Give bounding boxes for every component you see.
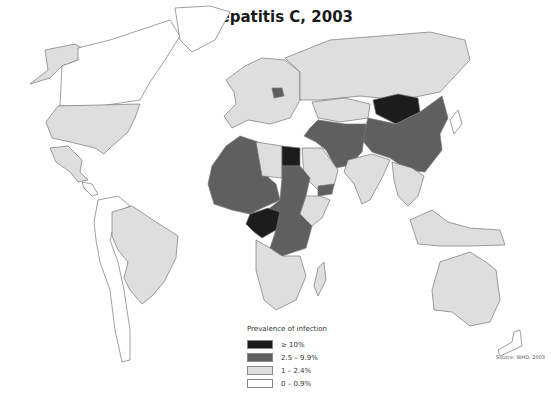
region-usa [46, 104, 140, 154]
legend-swatch [247, 353, 273, 362]
region-new-zealand [498, 330, 522, 356]
legend-item: ≥ 10% [247, 338, 327, 351]
legend-item: 1 – 2.4% [247, 364, 327, 377]
legend-label: ≥ 10% [281, 341, 305, 349]
legend-item: 2.5 – 9.9% [247, 351, 327, 364]
legend-item: 0 – 0.9% [247, 377, 327, 390]
legend: Prevalence of infection ≥ 10% 2.5 – 9.9%… [247, 325, 327, 390]
region-japan [450, 110, 462, 134]
region-russia [285, 32, 470, 100]
source-note: Source: WHO, 2003 [496, 354, 545, 360]
region-central-america [82, 182, 98, 196]
legend-title: Prevalence of infection [247, 325, 327, 333]
legend-swatch [247, 366, 273, 375]
region-indonesia [410, 210, 505, 246]
region-egypt [282, 146, 300, 166]
legend-swatch [247, 340, 273, 349]
region-mexico [50, 146, 88, 182]
legend-label: 2.5 – 9.9% [281, 354, 318, 362]
region-greenland [175, 6, 230, 52]
legend-label: 0 – 0.9% [281, 380, 311, 388]
region-canada [60, 20, 180, 106]
region-india [344, 154, 390, 204]
legend-label: 1 – 2.4% [281, 367, 311, 375]
region-madagascar [314, 262, 326, 296]
region-yemen [318, 184, 334, 196]
region-romania [272, 88, 284, 98]
legend-swatch [247, 379, 273, 388]
region-australia [432, 252, 500, 326]
region-kazakhstan [312, 98, 370, 122]
region-western-europe [224, 58, 300, 128]
